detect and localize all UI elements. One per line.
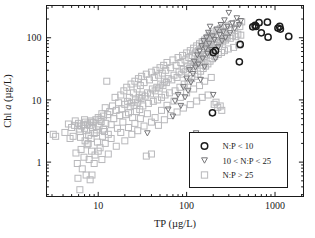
y-axis-label-post: (µg/L) — [2, 74, 14, 105]
marker-circle — [264, 19, 270, 25]
marker-square — [187, 102, 193, 108]
marker-square — [109, 103, 115, 109]
marker-circle — [209, 110, 215, 116]
marker-square — [62, 129, 68, 135]
marker-circle — [258, 30, 264, 36]
y-tick-label: 10 — [32, 95, 42, 106]
marker-square — [77, 187, 83, 193]
marker-square — [105, 151, 111, 157]
y-axis-label-pre: Chl — [2, 110, 13, 128]
marker-triangle-down — [226, 10, 232, 15]
marker-square — [144, 111, 150, 117]
marker-circle — [236, 59, 242, 65]
marker-square — [155, 122, 161, 128]
marker-square — [122, 138, 128, 144]
marker-square — [208, 74, 214, 80]
marker-square — [148, 119, 154, 125]
y-tick-label: 1 — [37, 157, 42, 168]
marker-square — [102, 105, 108, 111]
marker-triangle-down — [145, 131, 151, 136]
marker-square — [120, 119, 126, 125]
marker-circle — [265, 34, 271, 40]
marker-square — [125, 125, 131, 131]
y-tick-label: 100 — [27, 32, 42, 43]
marker-square — [113, 143, 119, 149]
marker-circle — [286, 33, 292, 39]
x-tick-label: 100 — [179, 200, 194, 211]
x-axis-label: TP (µg/L) — [154, 218, 197, 230]
marker-square — [141, 123, 147, 129]
marker-square — [53, 133, 59, 139]
marker-square — [130, 90, 136, 96]
marker-square — [162, 92, 168, 98]
marker-square — [180, 52, 186, 58]
marker-square — [161, 117, 167, 123]
legend: N:P < 1010 < N:P < 25N:P > 25 — [190, 133, 288, 188]
marker-square — [75, 175, 81, 181]
marker-square — [104, 78, 110, 84]
marker-square — [129, 131, 135, 137]
marker-square — [111, 116, 117, 122]
chart-figure: 101001000110100TP (µg/L)Chl a (µg/L)N:P … — [0, 0, 315, 238]
marker-square — [94, 139, 100, 145]
marker-triangle-down — [198, 77, 204, 82]
y-axis-label: Chl a (µg/L) — [2, 74, 14, 128]
legend-label: 10 < N:P < 25 — [223, 156, 272, 166]
marker-square — [191, 86, 197, 92]
legend-label: N:P > 25 — [223, 170, 254, 180]
marker-square — [152, 115, 158, 121]
marker-square — [50, 131, 56, 137]
scatter-plot: 101001000110100TP (µg/L)Chl a (µg/L)N:P … — [0, 0, 315, 238]
x-tick-label: 10 — [93, 200, 103, 211]
legend-label: N:P < 10 — [223, 141, 254, 151]
marker-square — [135, 128, 141, 134]
marker-square — [99, 157, 105, 163]
x-tick-label: 1000 — [265, 200, 285, 211]
marker-triangle-down — [165, 107, 171, 112]
